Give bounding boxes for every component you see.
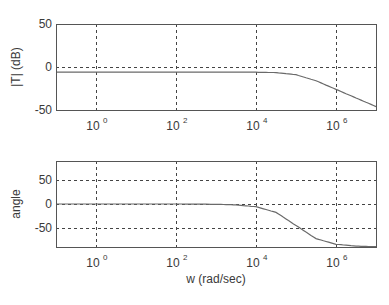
x-tick-label: 10 <box>246 256 260 270</box>
y-tick-label: 0 <box>45 197 52 211</box>
x-tick-label: 10 <box>326 119 340 133</box>
x-tick-label: 10 <box>86 256 100 270</box>
y-tick-label: 50 <box>39 173 53 187</box>
x-tick-exponent: 4 <box>263 253 268 262</box>
x-tick-exponent: 4 <box>263 116 268 125</box>
x-axis-label: w (rad/sec) <box>185 272 245 286</box>
x-tick-exponent: 2 <box>183 253 188 262</box>
x-tick-exponent: 2 <box>183 116 188 125</box>
x-tick-exponent: 6 <box>343 253 348 262</box>
x-tick-exponent: 0 <box>103 116 108 125</box>
y-tick-label: -50 <box>35 221 53 235</box>
magnitude-subplot: 500-50100102104106|T| (dB) <box>9 17 377 133</box>
x-tick-label: 10 <box>166 119 180 133</box>
bode-figure: 500-50100102104106|T| (dB) 500-501001021… <box>0 0 389 305</box>
bode-plot-canvas: 500-50100102104106|T| (dB) 500-501001021… <box>0 0 389 305</box>
x-tick-label: 10 <box>166 256 180 270</box>
x-tick-exponent: 0 <box>103 253 108 262</box>
y-axis-label: |T| (dB) <box>9 47 23 87</box>
x-tick-label: 10 <box>86 119 100 133</box>
y-axis-label: angle <box>9 189 23 219</box>
y-tick-label: -50 <box>35 103 53 117</box>
x-tick-label: 10 <box>326 256 340 270</box>
y-tick-label: 0 <box>45 60 52 74</box>
phase-subplot: 500-50100102104106anglew (rad/sec) <box>9 161 377 286</box>
y-tick-label: 50 <box>39 17 53 31</box>
x-tick-exponent: 6 <box>343 116 348 125</box>
x-tick-label: 10 <box>246 119 260 133</box>
